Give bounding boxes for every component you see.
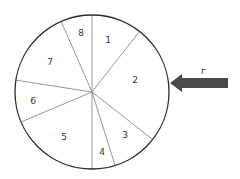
arrow-label: r [201, 66, 206, 76]
sector-label: 7 [47, 57, 53, 67]
sector-label: 4 [99, 147, 105, 157]
divider-line [15, 80, 92, 92]
sector-label: 5 [61, 132, 67, 142]
sector-label: 3 [122, 130, 128, 140]
arrow-icon [170, 74, 228, 92]
sector-diagram: 1 2 3 4 5 6 7 8 r [0, 0, 240, 179]
sector-label: 2 [132, 75, 138, 85]
divider-line [61, 21, 92, 92]
sector-label: 1 [105, 35, 111, 45]
sector-label: 8 [78, 28, 84, 38]
divider-lines [15, 15, 152, 169]
sector-label: 6 [30, 96, 36, 106]
